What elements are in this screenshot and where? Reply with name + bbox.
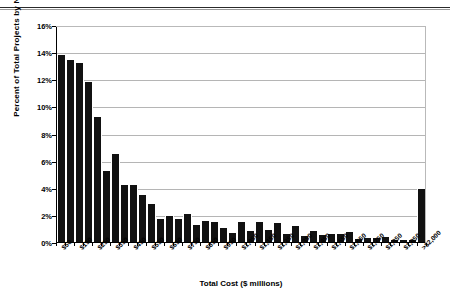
page-top-rule-secondary [0, 9, 450, 10]
bar [57, 55, 66, 242]
y-axis-tick-label: 16% [37, 22, 52, 31]
x-axis-tick-labels: $50$150$250$350$450$550$650$750$850$950$… [56, 246, 426, 276]
bar [66, 60, 75, 242]
y-axis-tick-label: 12% [37, 76, 52, 85]
bar [84, 82, 93, 242]
y-axis-tick-label: 14% [37, 49, 52, 58]
chart-figure: Percent of Total Projects by Number 16%1… [0, 0, 450, 301]
x-axis-title: Total Cost ($ millions) [56, 279, 426, 288]
bar [75, 63, 84, 242]
plot-frame-top [56, 26, 426, 27]
bar [102, 171, 111, 242]
y-axis-ticks: 16%14%12%10%8%6%4%2%0% [0, 26, 52, 243]
bar [129, 185, 138, 242]
y-axis-tick-label: 6% [41, 157, 52, 166]
y-axis-tick-label: 10% [37, 103, 52, 112]
page-top-rule [0, 7, 450, 8]
y-axis-tick-label: 8% [41, 130, 52, 139]
bar [201, 221, 210, 242]
plot-frame-right [425, 26, 426, 243]
plot-area [56, 26, 426, 243]
bar [111, 154, 120, 242]
bar [93, 117, 102, 242]
y-axis-tick-label: 4% [41, 184, 52, 193]
bar [165, 216, 174, 242]
bar [237, 222, 246, 242]
bar [147, 204, 156, 242]
y-axis-tick-label: 2% [41, 211, 52, 220]
y-axis-tick-label: 0% [41, 239, 52, 248]
bar [183, 214, 192, 242]
bar-series [57, 26, 426, 242]
bar [120, 185, 129, 242]
